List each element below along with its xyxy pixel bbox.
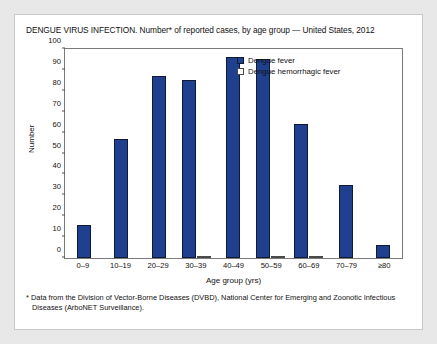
bar-dengue-hemorrhagic-fever xyxy=(197,256,211,258)
bar-dengue-fever xyxy=(256,59,270,258)
y-axis-tick-10: 10 xyxy=(53,224,61,233)
y-axis-tick-100: 100 xyxy=(48,36,61,45)
bar-group xyxy=(327,49,364,258)
x-axis-tick-label: 70–79 xyxy=(328,261,366,270)
legend: Dengue fever Dengue hemorrhagic fever xyxy=(237,56,340,78)
footnote-line-2: Diseases (ArboNET Surveillance). xyxy=(26,303,416,313)
bar-dengue-fever xyxy=(376,245,390,258)
plot-area: 0102030405060708090100 xyxy=(64,48,403,259)
y-axis-label: Number xyxy=(27,125,36,153)
chart-title: DENGUE VIRUS INFECTION. Number* of repor… xyxy=(26,25,416,36)
y-axis-tick-70: 70 xyxy=(53,98,61,107)
y-axis-tick-50: 50 xyxy=(53,140,61,149)
bar-group xyxy=(215,49,252,258)
x-axis-tick-label: 60–69 xyxy=(290,261,328,270)
bar-dengue-fever xyxy=(226,57,240,258)
bar-group xyxy=(290,49,327,258)
bar-dengue-hemorrhagic-fever xyxy=(309,256,323,258)
bar-group xyxy=(177,49,214,258)
y-axis-tick-40: 40 xyxy=(53,161,61,170)
bar-dengue-fever xyxy=(182,80,196,258)
footnote-line-1: * Data from the Division of Vector-Borne… xyxy=(26,293,395,302)
x-axis-tick-label: 20–29 xyxy=(139,261,177,270)
bar-group xyxy=(65,49,102,258)
x-axis-tick-label: 0–9 xyxy=(64,261,102,270)
bar-dengue-fever xyxy=(114,139,128,258)
x-axis-tick-label: 40–49 xyxy=(215,261,253,270)
bar-group xyxy=(252,49,289,258)
legend-item-dengue-fever: Dengue fever xyxy=(237,56,340,65)
bar-group xyxy=(140,49,177,258)
x-axis-tick-label: 50–59 xyxy=(252,261,290,270)
y-axis-tick-80: 80 xyxy=(53,77,61,86)
bar-series-container xyxy=(65,49,402,258)
bar-dengue-fever xyxy=(152,76,166,258)
bar-dengue-fever xyxy=(294,124,308,258)
legend-swatch-icon-dengue-hemorrhagic-fever xyxy=(237,68,244,75)
bar-dengue-fever xyxy=(339,185,353,258)
x-axis-tick-label: 10–19 xyxy=(102,261,140,270)
bar-group xyxy=(365,49,402,258)
footnote: * Data from the Division of Vector-Borne… xyxy=(26,293,416,313)
bar-group xyxy=(102,49,139,258)
chart-card: DENGUE VIRUS INFECTION. Number* of repor… xyxy=(14,14,423,330)
x-axis-tick-label: 30–39 xyxy=(177,261,215,270)
legend-label-dengue-fever: Dengue fever xyxy=(248,56,295,65)
bar-dengue-fever xyxy=(77,225,91,258)
x-axis-tick-labels: 0–910–1920–2930–3940–4950–5960–6970–79≥8… xyxy=(64,261,403,270)
legend-label-dengue-hemorrhagic-fever: Dengue hemorrhagic fever xyxy=(248,67,340,76)
y-axis-tick-0: 0 xyxy=(57,245,61,254)
legend-item-dengue-hemorrhagic-fever: Dengue hemorrhagic fever xyxy=(237,67,340,76)
x-axis-label: Age group (yrs) xyxy=(64,276,403,285)
y-axis-tick-60: 60 xyxy=(53,119,61,128)
x-axis-tick-label: ≥80 xyxy=(365,261,403,270)
y-axis-tick-20: 20 xyxy=(53,203,61,212)
bar-dengue-hemorrhagic-fever xyxy=(271,256,285,258)
y-axis-tick-90: 90 xyxy=(53,56,61,65)
y-axis-tick-30: 30 xyxy=(53,182,61,191)
legend-swatch-icon-dengue-fever xyxy=(237,57,244,64)
